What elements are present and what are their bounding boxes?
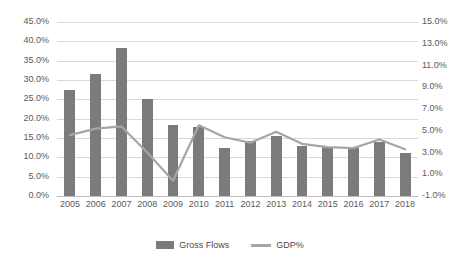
x-tick-2015: 2015	[315, 199, 341, 210]
gridline	[57, 196, 418, 197]
y-tick-right: 9.0%	[422, 82, 443, 91]
chart-container: 0.0%5.0%10.0%15.0%20.0%25.0%30.0%35.0%40…	[0, 0, 460, 264]
y-tick-left: 35.0%	[23, 56, 49, 65]
x-tick-2011: 2011	[212, 199, 238, 210]
legend-label-gdp: GDP%	[276, 240, 304, 250]
y-axis-left: 0.0%5.0%10.0%15.0%20.0%25.0%30.0%35.0%40…	[0, 22, 53, 196]
legend-item-gdp[interactable]: GDP%	[251, 240, 304, 250]
y-tick-left: 30.0%	[23, 75, 49, 84]
y-tick-right: 13.0%	[422, 39, 448, 48]
y-tick-right: -1.0%	[422, 191, 446, 200]
x-tick-2018: 2018	[392, 199, 418, 210]
x-tick-2017: 2017	[366, 199, 392, 210]
legend-label-gross-flows: Gross Flows	[179, 240, 229, 250]
x-tick-2013: 2013	[263, 199, 289, 210]
line-swatch-icon	[251, 244, 271, 247]
x-tick-2010: 2010	[186, 199, 212, 210]
x-tick-2006: 2006	[83, 199, 109, 210]
y-tick-left: 10.0%	[23, 152, 49, 161]
y-axis-right: -1.0%1.0%3.0%5.0%7.0%9.0%11.0%13.0%15.0%	[422, 22, 460, 196]
plot-area	[57, 22, 418, 196]
x-tick-2008: 2008	[134, 199, 160, 210]
y-tick-right: 11.0%	[422, 61, 447, 70]
y-tick-right: 3.0%	[422, 148, 443, 157]
y-tick-right: 15.0%	[422, 17, 448, 26]
bar-swatch-icon	[156, 241, 174, 249]
x-tick-2009: 2009	[160, 199, 186, 210]
x-tick-2012: 2012	[238, 199, 264, 210]
line-series-gdp	[57, 22, 418, 196]
y-tick-right: 5.0%	[422, 126, 443, 135]
y-tick-left: 45.0%	[23, 17, 49, 26]
y-tick-right: 7.0%	[422, 104, 443, 113]
chart-legend: Gross Flows GDP%	[0, 240, 460, 250]
x-tick-2016: 2016	[341, 199, 367, 210]
legend-item-gross-flows[interactable]: Gross Flows	[156, 240, 229, 250]
x-axis-categories: 2005200620072008200920102011201220132014…	[57, 199, 418, 213]
y-tick-left: 40.0%	[23, 36, 49, 45]
y-tick-left: 25.0%	[23, 94, 49, 103]
y-tick-right: 1.0%	[422, 169, 443, 178]
x-tick-2005: 2005	[57, 199, 83, 210]
y-tick-left: 5.0%	[28, 172, 49, 181]
y-tick-left: 15.0%	[23, 133, 49, 142]
x-tick-2014: 2014	[289, 199, 315, 210]
x-tick-2007: 2007	[109, 199, 135, 210]
y-tick-left: 20.0%	[23, 114, 49, 123]
y-tick-left: 0.0%	[28, 191, 49, 200]
